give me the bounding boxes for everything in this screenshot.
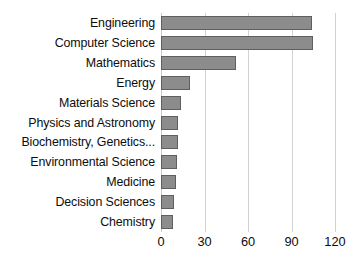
category-label: Decision Sciences [0, 195, 155, 209]
bar-row [161, 135, 335, 149]
bar-row [161, 195, 335, 209]
x-tick-label: 30 [197, 234, 211, 250]
bar [161, 155, 177, 169]
x-tick-label: 90 [284, 234, 298, 250]
bar [161, 175, 176, 189]
bar [161, 195, 174, 209]
x-tick-label: 60 [241, 234, 255, 250]
category-label: Engineering [0, 16, 155, 30]
plot-area [161, 13, 335, 232]
bar [161, 96, 181, 110]
category-label: Energy [0, 76, 155, 90]
category-label: Environmental Science [0, 155, 155, 169]
category-label: Materials Science [0, 96, 155, 110]
bar-row [161, 96, 335, 110]
category-label: Physics and Astronomy [0, 116, 155, 130]
category-label: Biochemistry, Genetics... [0, 135, 155, 149]
bar-row [161, 36, 335, 50]
x-tick-label: 120 [324, 234, 345, 250]
value-axis: 0306090120 [161, 234, 335, 256]
bar [161, 215, 173, 229]
category-label: Chemistry [0, 215, 155, 229]
gridline-120 [335, 13, 336, 232]
category-label: Medicine [0, 175, 155, 189]
bar-chart: EngineeringComputer ScienceMathematicsEn… [0, 0, 361, 269]
bar [161, 56, 236, 70]
bar-row [161, 215, 335, 229]
bar [161, 16, 312, 30]
category-label: Mathematics [0, 56, 155, 70]
category-axis: EngineeringComputer ScienceMathematicsEn… [0, 13, 155, 232]
bar [161, 76, 190, 90]
category-label: Computer Science [0, 36, 155, 50]
bar [161, 36, 313, 50]
bar [161, 135, 178, 149]
bar-row [161, 56, 335, 70]
bar [161, 116, 178, 130]
bar-row [161, 76, 335, 90]
x-tick-label: 0 [157, 234, 164, 250]
bar-row [161, 175, 335, 189]
bar-row [161, 116, 335, 130]
bar-row [161, 155, 335, 169]
bar-row [161, 16, 335, 30]
